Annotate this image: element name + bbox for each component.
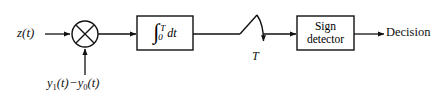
sign-detector-line-1: Sign	[315, 20, 336, 33]
reference-minus-operator: −	[70, 76, 77, 90]
integrator-expression: ∫ T 0 dt	[137, 16, 193, 50]
input-signal-label: z(t)	[17, 26, 34, 39]
reference-signal-label: y1(t) − y0(t)	[47, 77, 99, 90]
reference-y0-subscript: 0	[83, 82, 87, 92]
integral-lower-limit: 0	[158, 33, 163, 42]
sampling-instant-label: T	[252, 50, 259, 62]
switch-arm	[240, 15, 257, 34]
sign-detector-label: Sign detector	[297, 16, 354, 50]
integral-differential: dt	[167, 26, 176, 41]
reference-y1-subscript: 1	[53, 82, 57, 92]
switch-actuation-arrow	[257, 15, 264, 41]
reference-y1-symbol: y	[47, 76, 53, 90]
reference-y0-argument: (t)	[88, 76, 100, 90]
output-decision-label: Decision	[386, 26, 430, 39]
integral-limits: T 0	[160, 24, 165, 43]
reference-y1-argument: (t)	[57, 76, 69, 90]
sign-detector-line-2: detector	[307, 33, 344, 46]
block-diagram-canvas: z(t) y1(t) − y0(t) ∫ T 0 dt T Sign detec…	[0, 0, 440, 95]
